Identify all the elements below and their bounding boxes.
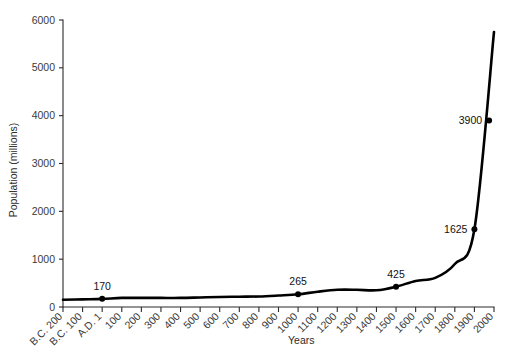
x-tick-label: 1600 [392, 310, 417, 335]
x-tick-label: 1800 [431, 310, 456, 335]
data-point-label: 1625 [444, 223, 468, 235]
y-tick-label: 4000 [32, 109, 56, 121]
x-axis-title: Years [288, 334, 314, 346]
data-point-marker [471, 226, 477, 232]
x-tick-label: 600 [200, 310, 221, 331]
x-tick-label: 100 [102, 310, 123, 331]
x-tick-label: 200 [122, 310, 143, 331]
x-tick-label: 700 [220, 310, 241, 331]
data-point-marker [99, 296, 105, 302]
data-point-marker [295, 291, 301, 297]
x-axis-tick-labels: B.C. 200B.C. 100A.D. 1100200300400500600… [27, 310, 495, 347]
y-tick-label: 6000 [32, 14, 56, 26]
x-tick-label: 2000 [470, 310, 495, 335]
x-tick-label: 1100 [295, 310, 320, 335]
x-tick-label: 400 [161, 310, 182, 331]
y-tick-label: 5000 [32, 61, 56, 73]
x-tick-label: 1400 [353, 310, 378, 335]
data-point-marker [393, 284, 399, 290]
y-axis-title: Population (millions) [7, 123, 19, 218]
data-point-label: 425 [387, 268, 405, 280]
population-curve [63, 32, 494, 300]
data-point-labels: 17026542516253900 [93, 114, 482, 291]
data-point-marker [486, 117, 492, 123]
y-tick-label: 2000 [32, 205, 56, 217]
y-axis-tick-labels: 0100020003000400050006000 [32, 14, 56, 313]
x-tick-label: 800 [239, 310, 260, 331]
x-tick-label: 300 [141, 310, 162, 331]
x-tick-label: 1700 [412, 310, 437, 335]
data-point-label: 3900 [459, 114, 483, 126]
y-axis-ticks [59, 20, 63, 307]
y-tick-label: 3000 [32, 157, 56, 169]
chart-canvas: 0100020003000400050006000 B.C. 200B.C. 1… [0, 0, 517, 361]
x-tick-label: 500 [181, 310, 202, 331]
x-tick-label: 1000 [275, 310, 300, 335]
data-point-label: 265 [289, 275, 307, 287]
x-tick-label: 1300 [333, 310, 358, 335]
population-growth-chart: 0100020003000400050006000 B.C. 200B.C. 1… [0, 0, 517, 361]
x-tick-label: 1200 [314, 310, 339, 335]
x-tick-label: 1900 [451, 310, 476, 335]
data-point-label: 170 [93, 280, 111, 292]
y-tick-label: 1000 [32, 253, 56, 265]
data-point-markers [99, 117, 492, 301]
x-tick-label: 1500 [372, 310, 397, 335]
